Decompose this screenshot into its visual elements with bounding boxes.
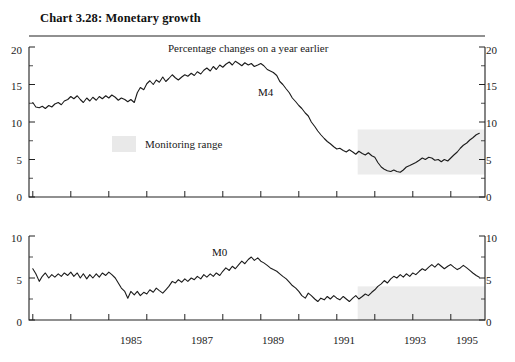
series-label-m4: M4	[258, 86, 273, 98]
xtick-1987: 1987	[182, 334, 222, 346]
chart-figure: Chart 3.28: Monetary growth Percentage c…	[0, 0, 515, 362]
xtick-1993: 1993	[395, 334, 435, 346]
bottom-ytick-left-0: 0	[0, 316, 22, 328]
legend-swatch-monitoring-range	[112, 136, 136, 152]
top-ytick-left-15: 15	[0, 80, 22, 92]
top-ytick-left-0: 0	[0, 191, 22, 203]
xtick-1985: 1985	[111, 334, 151, 346]
bottom-ytick-right-0: 0	[486, 316, 508, 328]
xtick-1995: 1995	[447, 334, 487, 346]
top-ytick-right-20: 20	[486, 44, 508, 56]
top-ytick-right-5: 5	[486, 154, 508, 166]
chart-canvas	[0, 0, 515, 362]
top-ytick-right-10: 10	[486, 117, 508, 129]
xtick-1991: 1991	[324, 334, 364, 346]
bottom-ytick-right-5: 5	[486, 274, 508, 286]
top-ytick-left-20: 20	[0, 44, 22, 56]
top-ytick-right-0: 0	[486, 191, 508, 203]
bottom-ytick-right-10: 10	[486, 232, 508, 244]
series-label-m0: M0	[212, 246, 227, 258]
bottom-ytick-left-10: 10	[0, 232, 22, 244]
top-ytick-left-10: 10	[0, 117, 22, 129]
bottom-ytick-left-5: 5	[0, 274, 22, 286]
top-ytick-left-5: 5	[0, 154, 22, 166]
top-ytick-right-15: 15	[486, 80, 508, 92]
xtick-1989: 1989	[253, 334, 293, 346]
legend-label-monitoring-range: Monitoring range	[145, 138, 222, 150]
